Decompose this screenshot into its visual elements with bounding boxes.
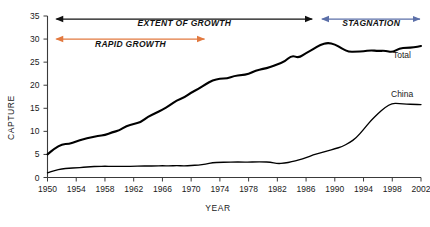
y-tick-marks	[44, 16, 48, 178]
y-tick-label: 20	[30, 80, 40, 90]
x-tick-labels: 1950195419581962196619701974197819821986…	[38, 184, 430, 194]
series-inline-labels: TotalChina	[391, 50, 413, 99]
x-tick-label: 1986	[297, 184, 316, 194]
series-label-china: China	[391, 89, 413, 99]
y-tick-label: 30	[30, 34, 40, 44]
y-tick-label: 35	[30, 11, 40, 21]
annotation-layer: EXTENT OF GROWTHSTAGNATIONRAPID GROWTH	[57, 18, 421, 49]
x-tick-label: 2002	[412, 184, 430, 194]
x-tick-label: 1982	[268, 184, 287, 194]
x-axis-title: YEAR	[205, 203, 231, 213]
x-tick-label: 1994	[354, 184, 373, 194]
annotation-label-stagnation: STAGNATION	[342, 18, 400, 28]
chart-svg: 05101520253035 CAPTURE 19501954195819621…	[0, 0, 430, 227]
x-tick-label: 1966	[153, 184, 172, 194]
x-tick-label: 1990	[325, 184, 344, 194]
series-line-china	[48, 103, 422, 172]
x-axis: 1950195419581962196619701974197819821986…	[38, 178, 430, 214]
capture-vs-year-line-chart: 05101520253035 CAPTURE 19501954195819621…	[0, 0, 430, 227]
x-tick-label: 1954	[67, 184, 86, 194]
y-tick-labels: 05101520253035	[30, 11, 40, 183]
series-layer	[48, 43, 422, 173]
y-tick-label: 25	[30, 57, 40, 67]
y-axis-title: CAPTURE	[6, 95, 16, 140]
x-tick-label: 1962	[124, 184, 143, 194]
x-tick-label: 1958	[96, 184, 115, 194]
x-tick-label: 1950	[38, 184, 57, 194]
annotation-label-rapid-growth: RAPID GROWTH	[95, 39, 167, 49]
series-line-total	[48, 43, 422, 154]
x-tick-label: 1970	[182, 184, 201, 194]
y-tick-label: 0	[35, 173, 40, 183]
x-tick-label: 1974	[210, 184, 229, 194]
annotation-label-extent-of-growth: EXTENT OF GROWTH	[138, 18, 232, 28]
y-tick-label: 10	[30, 126, 40, 136]
y-axis: 05101520253035 CAPTURE	[6, 11, 48, 183]
series-label-total: Total	[393, 50, 411, 60]
x-tick-label: 1978	[239, 184, 258, 194]
x-tick-marks	[48, 178, 422, 182]
y-tick-label: 15	[30, 103, 40, 113]
x-tick-label: 1998	[383, 184, 402, 194]
y-tick-label: 5	[35, 149, 40, 159]
